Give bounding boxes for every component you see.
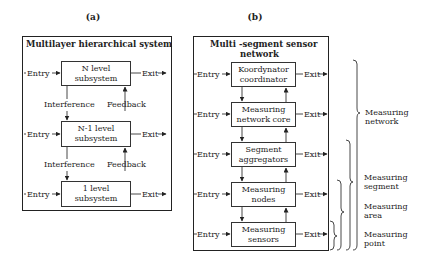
diagram-connectors	[0, 0, 426, 265]
